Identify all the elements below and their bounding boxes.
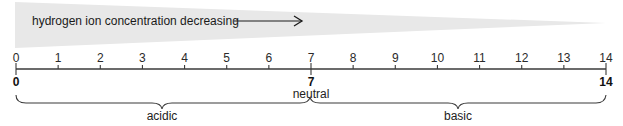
- tick-label-10: 10: [431, 51, 445, 65]
- tick-label-2: 2: [97, 51, 104, 65]
- tick-label-13: 13: [557, 51, 571, 65]
- marker-14: 14: [599, 75, 613, 89]
- acidic-label: acidic: [147, 109, 178, 123]
- tick-label-12: 12: [515, 51, 529, 65]
- basic-label: basic: [444, 109, 472, 123]
- tick-label-0: 0: [13, 51, 20, 65]
- tick-label-1: 1: [55, 51, 62, 65]
- tick-label-11: 11: [473, 51, 486, 65]
- acidic-brace: [16, 95, 310, 109]
- ph-scale-diagram: hydrogen ion concentration decreasing 01…: [0, 0, 623, 126]
- scale-tick-labels: 01234567891011121314: [13, 51, 613, 65]
- basic-brace: [310, 95, 606, 109]
- tick-label-5: 5: [223, 51, 230, 65]
- wedge-label: hydrogen ion concentration decreasing: [32, 14, 239, 28]
- tick-label-3: 3: [139, 51, 146, 65]
- tick-label-9: 9: [392, 51, 399, 65]
- tick-label-7: 7: [308, 51, 315, 65]
- tick-label-14: 14: [599, 51, 613, 65]
- tick-label-4: 4: [181, 51, 188, 65]
- marker-0: 0: [13, 75, 20, 89]
- tick-label-8: 8: [350, 51, 357, 65]
- tick-label-6: 6: [266, 51, 273, 65]
